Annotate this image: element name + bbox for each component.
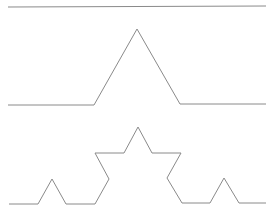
koch-iteration-1: [8, 29, 266, 105]
koch-iteration-2: [9, 127, 266, 204]
koch-iteration-0: [8, 6, 266, 7]
diagram-svg: [0, 0, 270, 216]
koch-curve-diagram: [0, 0, 270, 216]
